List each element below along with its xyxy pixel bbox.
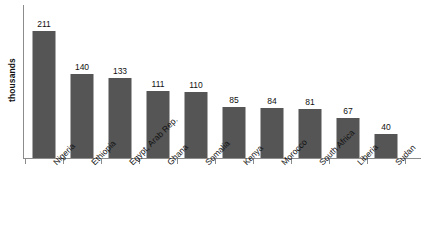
bar-group[interactable]: 81	[291, 5, 329, 158]
bar-value-label: 211	[37, 20, 51, 29]
bar-value-label: 67	[343, 107, 352, 116]
plot-area: 2111401331111108584816740	[23, 5, 421, 158]
bar-group[interactable]: 85	[215, 5, 253, 158]
x-axis-labels: NigeriaEthiopiaEgypt, Arab Rep.GhanaSoma…	[23, 160, 421, 229]
bar-group[interactable]: 40	[367, 5, 405, 158]
bar-value-label: 40	[381, 123, 390, 132]
x-axis-label: Liberia	[355, 160, 362, 167]
y-axis-title: thousands	[0, 0, 24, 160]
bar-value-label: 110	[189, 81, 203, 90]
bar[interactable]	[33, 31, 56, 158]
x-axis-label: Ghana	[165, 160, 172, 167]
x-axis-label: Morocco	[279, 160, 286, 167]
x-axis-label: Somalia	[203, 160, 210, 167]
x-axis-label: Ethiopia	[89, 160, 96, 167]
x-axis-label: Egypt, Arab Rep.	[127, 160, 134, 167]
x-axis-label: Sudan	[393, 160, 400, 167]
x-axis-label: Nigeria	[51, 160, 58, 167]
bar-value-label: 140	[75, 63, 89, 72]
bar-group[interactable]: 140	[63, 5, 101, 158]
bar-group[interactable]: 110	[177, 5, 215, 158]
x-axis-label: Kenya	[241, 160, 248, 167]
x-axis-label: South Africa	[317, 160, 324, 167]
bar-value-label: 85	[229, 96, 238, 105]
bar-group[interactable]: 211	[25, 5, 63, 158]
bars-layer: 2111401331111108584816740	[23, 5, 421, 158]
bar-group[interactable]: 84	[253, 5, 291, 158]
bar-value-label: 111	[152, 80, 165, 89]
bar-chart: thousands 2111401331111108584816740 Nige…	[0, 0, 431, 229]
bar-group[interactable]: 133	[101, 5, 139, 158]
bar-value-label: 81	[305, 98, 314, 107]
bar-value-label: 84	[267, 97, 276, 106]
y-axis-title-label: thousands	[7, 58, 17, 102]
bar-value-label: 133	[113, 67, 127, 76]
